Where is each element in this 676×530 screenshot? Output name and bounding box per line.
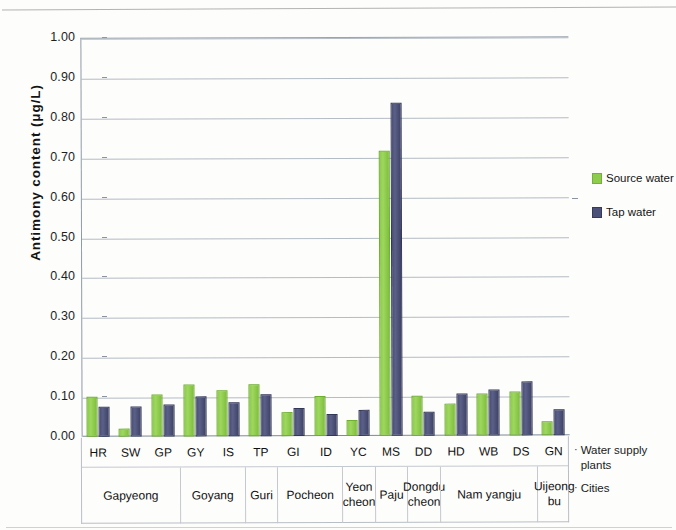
bar-source-water — [314, 396, 325, 436]
bar-tap-water — [390, 103, 402, 436]
plant-label-cell: GY — [179, 437, 212, 466]
city-label-cell: Guri — [245, 467, 278, 523]
bar-tap-water — [554, 409, 565, 435]
caption-cities-label: Cities — [581, 481, 610, 496]
bar-group — [345, 37, 369, 436]
city-label-cell: Goyang — [180, 467, 245, 523]
bar-source-water — [542, 421, 553, 435]
bar-tap-water — [98, 407, 109, 437]
y-axis-tick-label: 0.10 — [29, 389, 75, 403]
plant-label-cell: GI — [277, 437, 310, 466]
bar-source-water — [216, 390, 227, 436]
bar-tap-water — [489, 390, 500, 436]
y-axis-tick-labels: 1.000.900.800.700.600.500.400.300.200.10… — [25, 37, 75, 436]
bar-group — [215, 37, 239, 436]
bar-source-water — [378, 151, 390, 436]
city-label-cell: Dongdu cheon — [407, 467, 440, 523]
caption-water-supply-plants-label: Water supply plants — [581, 443, 674, 473]
axis-row-captions: · Water supply plants · Cities — [574, 443, 674, 496]
bar-group — [280, 37, 304, 436]
legend-item-source-water: Source water — [592, 172, 676, 184]
bar-group — [85, 38, 109, 437]
plant-label-cell: YC — [342, 437, 375, 466]
cities-row: GapyeongGoyangGuriPocheonYeon cheonPajuD… — [82, 465, 568, 524]
plant-label-cell: WB — [472, 436, 505, 465]
bar-group — [150, 37, 174, 436]
caption-water-supply-plants: · Water supply plants — [574, 443, 674, 473]
bar-source-water — [86, 397, 97, 437]
bar-tap-water — [228, 402, 239, 436]
bar-tap-water — [359, 410, 370, 436]
bar-group — [508, 36, 532, 435]
city-label-cell: Nam yangju — [440, 466, 538, 522]
city-label-cell: Gapyeong — [82, 467, 180, 523]
bar-group — [118, 38, 142, 437]
plant-label-cell: IS — [212, 437, 245, 466]
caption-cities: · Cities — [574, 481, 674, 496]
plant-label-cell: GN — [537, 436, 570, 465]
bullet-icon: · — [574, 443, 578, 457]
legend-label-source-water: Source water — [606, 172, 674, 184]
plant-label-cell: MS — [375, 437, 408, 466]
y-axis-tick-label: 0.40 — [29, 269, 75, 283]
city-label-cell: Pocheon — [277, 467, 342, 523]
plant-label-cell: HR — [82, 438, 115, 467]
plant-label-cell: TP — [245, 437, 278, 466]
bar-tap-water — [293, 408, 304, 436]
bar-group — [541, 36, 565, 435]
bar-source-water — [347, 420, 358, 436]
bar-group — [313, 37, 337, 436]
bar-group — [248, 37, 272, 436]
legend-axis-tick — [572, 198, 578, 199]
legend-item-tap-water: Tap water — [592, 206, 676, 218]
plant-label-cell: ID — [310, 437, 343, 466]
bar-source-water — [282, 412, 293, 436]
y-axis-tick-label: 0.00 — [29, 429, 75, 443]
bar-group — [476, 36, 500, 435]
bullet-icon: · — [574, 481, 578, 495]
plant-label-cell: GP — [147, 437, 180, 466]
antimony-content-bar-chart: Antimony content (μg/L) 1.000.900.800.70… — [0, 0, 676, 530]
bar-source-water — [119, 429, 130, 437]
bar-source-water — [509, 392, 520, 436]
bar-tap-water — [196, 396, 207, 436]
category-axis-table: HRSWGPGYISTPGIIDYCMSDDHDWBDSGN GapyeongG… — [81, 436, 569, 524]
y-axis-tick-label: 0.30 — [29, 309, 75, 323]
legend-label-tap-water: Tap water — [606, 206, 656, 218]
bar-source-water — [477, 394, 488, 436]
y-axis-tick-label: 0.90 — [29, 70, 75, 84]
bar-tap-water — [456, 394, 467, 436]
bar-tap-water — [163, 405, 174, 437]
city-label-cell: Yeon cheon — [342, 467, 375, 523]
bar-group — [378, 37, 402, 436]
bar-series-container — [80, 36, 569, 437]
y-axis-tick-label: 0.20 — [29, 349, 75, 363]
y-axis-tick-label: 0.80 — [29, 110, 75, 124]
bar-tap-water — [261, 394, 272, 436]
chart-legend: Source water Tap water — [592, 172, 676, 240]
bar-source-water — [444, 404, 455, 436]
y-axis-tick-label: 0.70 — [29, 150, 75, 164]
bar-tap-water — [131, 407, 142, 437]
bar-source-water — [151, 395, 162, 437]
legend-swatch-source-water-icon — [592, 173, 602, 184]
bar-source-water — [184, 385, 195, 437]
bar-tap-water — [521, 381, 532, 435]
plant-label-cell: SW — [114, 438, 147, 467]
y-axis-tick-label: 1.00 — [29, 30, 75, 44]
bar-group — [410, 37, 434, 436]
plant-label-cell: DD — [407, 437, 440, 466]
plant-label-cell: DS — [505, 436, 538, 465]
bar-tap-water — [326, 414, 337, 436]
bar-source-water — [412, 396, 423, 436]
legend-swatch-tap-water-icon — [592, 207, 602, 218]
y-axis-tick-label: 0.50 — [29, 230, 75, 244]
bar-tap-water — [424, 412, 435, 436]
bar-source-water — [249, 384, 260, 436]
plant-label-cell: HD — [440, 437, 473, 466]
y-axis-tick-label: 0.60 — [29, 190, 75, 204]
bar-group — [443, 37, 467, 436]
bar-group — [183, 37, 207, 436]
water-supply-plants-row: HRSWGPGYISTPGIIDYCMSDDHDWBDSGN — [82, 436, 568, 467]
city-label-cell: Uijeong bu — [537, 466, 570, 522]
